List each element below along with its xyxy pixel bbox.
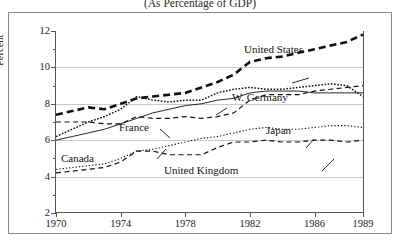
y-axis-label: 2 [10,208,50,218]
y-axis-label: 12 [10,26,50,36]
annotation-united-kingdom: United Kingdom [164,165,238,176]
x-tick [56,213,57,217]
x-axis-label: 1989 [338,218,388,229]
y-axis-label: 8 [10,99,50,109]
x-tick [315,213,316,217]
x-axis-label: 1974 [96,218,146,229]
y-axis-label: 6 [10,135,50,145]
chart-figure: (As Percentage of GDP) Percent United St… [0,0,400,247]
y-axis-right-line [363,31,364,213]
annotation-leader-lines [56,31,363,213]
x-axis-label: 1978 [160,218,210,229]
x-axis-label: 1982 [225,218,275,229]
y-axis-title: Percent [0,35,5,67]
annotation-france: France [119,122,149,133]
annotation-japan: Japan [266,125,291,136]
x-axis-label: 1970 [31,218,81,229]
annotation-w-germany: W. Germany [232,92,288,103]
plot-area: United States W. Germany France Japan Ca… [56,31,363,213]
chart-title: (As Percentage of GDP) [0,0,400,10]
annotation-canada: Canada [61,153,94,164]
annotation-united-states: United States [244,44,303,55]
x-tick [363,213,364,217]
x-tick [250,213,251,217]
x-tick [121,213,122,217]
y-axis-label: 10 [10,62,50,72]
x-tick [185,213,186,217]
x-axis-label: 1986 [290,218,340,229]
y-axis-label: 4 [10,172,50,182]
